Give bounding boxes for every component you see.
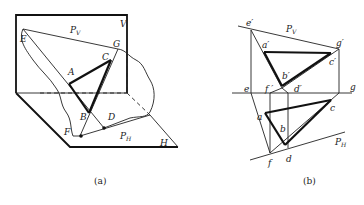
label-f-prime: f ′ (264, 84, 273, 94)
label-f: F (63, 127, 71, 137)
label-ph: PH (119, 131, 132, 142)
hidden-diagonal (127, 93, 150, 115)
line-gf (80, 49, 118, 136)
label-g: G (113, 39, 120, 49)
label-e: e (244, 84, 249, 94)
edge-ab (69, 84, 89, 113)
label-c: C (102, 52, 109, 62)
figure-b: e′ PV a′ g′ c′ b′ e f ′ d′ g c a b PH f … (232, 18, 356, 186)
label-c: c (330, 103, 335, 113)
label-b: B (79, 112, 87, 122)
label-d: D (107, 112, 115, 122)
edge-a-c-prime (264, 52, 331, 53)
caption-b: (b) (303, 176, 316, 186)
edge-c-b-prime (282, 53, 331, 86)
proj-f (270, 88, 282, 153)
label-pv: PV (285, 24, 297, 35)
figure-a: V PV E G C A B D F PH H (a) (16, 15, 178, 186)
label-c-prime: c′ (329, 57, 336, 67)
label-g: g (350, 82, 356, 92)
label-e: E (19, 34, 27, 44)
label-a-prime: a′ (262, 40, 269, 50)
label-b-prime: b′ (282, 71, 290, 81)
point-d-dot (102, 126, 106, 130)
label-d-prime: d′ (294, 84, 302, 94)
label-e-prime: e′ (246, 18, 253, 28)
edge-cb (89, 60, 111, 113)
label-g-prime: g′ (336, 38, 344, 48)
edge-a-b-prime (264, 52, 282, 86)
label-d: d (286, 154, 292, 164)
diagram-canvas: V PV E G C A B D F PH H (a) (0, 0, 364, 205)
label-a: A (67, 67, 75, 77)
label-b: b (280, 124, 286, 134)
line-ef (251, 93, 270, 153)
label-ph: PH (334, 137, 347, 148)
line-g-f-prime (282, 49, 339, 88)
proj-d (282, 88, 288, 148)
label-f: f (267, 158, 273, 168)
label-pv: PV (69, 25, 81, 36)
label-a: a (257, 112, 262, 122)
point-f-dot (79, 134, 83, 138)
label-h: H (159, 138, 168, 148)
caption-a: (a) (94, 176, 106, 186)
